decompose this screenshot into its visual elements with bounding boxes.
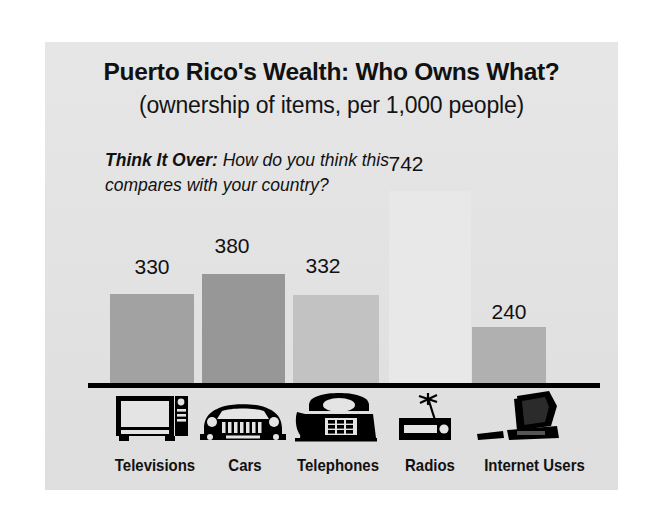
bar-televisions[interactable] xyxy=(110,294,194,383)
bar-cars[interactable] xyxy=(202,274,285,383)
bar-value-radios: 742 xyxy=(361,152,451,176)
bar-telephones[interactable] xyxy=(293,295,379,383)
bar-value-televisions: 330 xyxy=(107,255,197,279)
bar-radios[interactable] xyxy=(389,191,471,383)
bar-value-telephones: 332 xyxy=(278,254,368,278)
television-icon xyxy=(115,394,189,442)
axis-baseline xyxy=(88,383,600,388)
bar-value-internet-users: 240 xyxy=(464,300,554,324)
category-label-cars: Cars xyxy=(205,456,284,476)
category-label-televisions: Televisions xyxy=(102,456,208,476)
computer-icon xyxy=(477,390,565,442)
car-icon xyxy=(200,394,286,442)
radio-icon xyxy=(395,392,465,442)
category-label-telephones: Telephones xyxy=(286,456,390,476)
category-label-radios: Radios xyxy=(391,456,468,476)
chart-page: Puerto Rico's Wealth: Who Owns What? (ow… xyxy=(0,0,657,509)
category-label-internet-users: Internet Users xyxy=(471,456,599,476)
plot-area: 330 380 332 742 240 xyxy=(45,42,618,490)
telephone-icon xyxy=(295,392,377,442)
bar-value-cars: 380 xyxy=(187,234,277,258)
bar-internet-users[interactable] xyxy=(472,327,546,383)
chart-panel: Puerto Rico's Wealth: Who Owns What? (ow… xyxy=(45,42,618,490)
